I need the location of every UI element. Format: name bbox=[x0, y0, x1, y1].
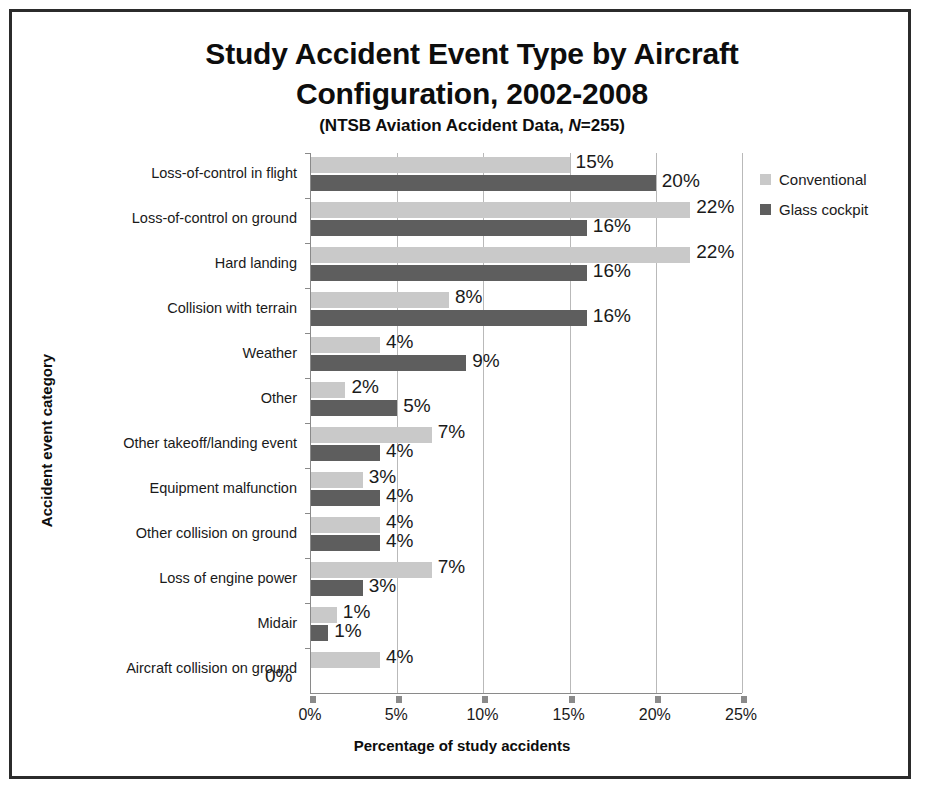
bar-value-label-glass: 9% bbox=[472, 350, 499, 372]
legend-swatch-icon bbox=[760, 204, 771, 215]
x-axis-line bbox=[310, 693, 742, 694]
category-axis-label: Other collision on ground bbox=[37, 525, 297, 541]
category-axis-label: Aircraft collision on ground bbox=[37, 660, 297, 676]
bar-value-label-conventional: 8% bbox=[455, 286, 482, 308]
x-axis-tick bbox=[482, 696, 488, 703]
category-axis-label: Loss-of-control in flight bbox=[37, 165, 297, 181]
category-tick bbox=[305, 648, 311, 649]
category-row: Loss of engine power7%3% bbox=[311, 558, 741, 603]
x-axis-tick-label: 5% bbox=[361, 706, 431, 724]
category-tick bbox=[305, 513, 311, 514]
bar-value-label-glass: 0% bbox=[265, 665, 292, 687]
legend-label: Conventional bbox=[779, 171, 867, 188]
bar-glass[interactable] bbox=[311, 490, 380, 506]
bar-value-label-glass: 5% bbox=[403, 395, 430, 417]
x-axis-title: Percentage of study accidents bbox=[182, 737, 742, 754]
bar-conventional[interactable] bbox=[311, 247, 690, 263]
bar-value-label-glass: 16% bbox=[593, 215, 631, 237]
x-axis-tick bbox=[396, 696, 402, 703]
category-tick bbox=[305, 243, 311, 244]
x-axis-tick bbox=[310, 696, 316, 703]
category-tick bbox=[305, 603, 311, 604]
bar-value-label-conventional: 4% bbox=[386, 646, 413, 668]
bar-glass[interactable] bbox=[311, 265, 587, 281]
bar-conventional[interactable] bbox=[311, 337, 380, 353]
bar-value-label-glass: 3% bbox=[369, 575, 396, 597]
category-axis-label: Weather bbox=[37, 345, 297, 361]
legend-item-glass[interactable]: Glass cockpit bbox=[760, 194, 868, 224]
category-tick bbox=[305, 558, 311, 559]
bar-value-label-glass: 16% bbox=[593, 260, 631, 282]
category-row: Loss-of-control on ground22%16% bbox=[311, 198, 741, 243]
chart-subtitle-suffix: =255) bbox=[581, 116, 625, 135]
category-axis-label: Other bbox=[37, 390, 297, 406]
category-axis-label: Midair bbox=[37, 615, 297, 631]
x-axis-tick-label: 10% bbox=[447, 706, 517, 724]
bar-conventional[interactable] bbox=[311, 472, 363, 488]
chart-title-line-1: Study Accident Event Type by Aircraft bbox=[122, 34, 822, 74]
chart-legend: ConventionalGlass cockpit bbox=[760, 164, 868, 224]
chart-title-line-2: Configuration, 2002-2008 bbox=[122, 74, 822, 114]
chart-title: Study Accident Event Type by Aircraft Co… bbox=[122, 34, 822, 114]
bar-conventional[interactable] bbox=[311, 607, 337, 623]
bar-conventional[interactable] bbox=[311, 517, 380, 533]
gridline bbox=[742, 153, 743, 693]
legend-item-conventional[interactable]: Conventional bbox=[760, 164, 868, 194]
bar-conventional[interactable] bbox=[311, 157, 570, 173]
category-axis-label: Hard landing bbox=[37, 255, 297, 271]
x-axis-tick-label: 25% bbox=[706, 706, 776, 724]
category-row: Other collision on ground4%4% bbox=[311, 513, 741, 558]
bar-value-label-conventional: 7% bbox=[438, 421, 465, 443]
category-row: Other takeoff/landing event7%4% bbox=[311, 423, 741, 468]
bar-conventional[interactable] bbox=[311, 427, 432, 443]
bar-conventional[interactable] bbox=[311, 382, 345, 398]
bar-glass[interactable] bbox=[311, 445, 380, 461]
category-row: Other2%5% bbox=[311, 378, 741, 423]
bar-glass[interactable] bbox=[311, 625, 328, 641]
category-tick bbox=[305, 153, 311, 154]
category-row: Equipment malfunction3%4% bbox=[311, 468, 741, 513]
category-tick bbox=[305, 378, 311, 379]
x-axis-tick-label: 15% bbox=[534, 706, 604, 724]
category-tick bbox=[305, 198, 311, 199]
bar-value-label-conventional: 15% bbox=[576, 151, 614, 173]
bar-value-label-conventional: 22% bbox=[696, 196, 734, 218]
x-axis-tick bbox=[741, 696, 747, 703]
chart-figure-frame: Study Accident Event Type by Aircraft Co… bbox=[9, 9, 911, 779]
category-axis-label: Loss of engine power bbox=[37, 570, 297, 586]
category-axis-label: Other takeoff/landing event bbox=[37, 435, 297, 451]
category-axis-label: Loss-of-control on ground bbox=[37, 210, 297, 226]
bar-value-label-conventional: 2% bbox=[351, 376, 378, 398]
category-tick bbox=[305, 288, 311, 289]
bar-value-label-glass: 1% bbox=[334, 620, 361, 642]
category-axis-label: Collision with terrain bbox=[37, 300, 297, 316]
bar-value-label-glass: 16% bbox=[593, 305, 631, 327]
bar-value-label-conventional: 4% bbox=[386, 331, 413, 353]
category-tick bbox=[305, 423, 311, 424]
bar-glass[interactable] bbox=[311, 310, 587, 326]
category-row: Hard landing22%16% bbox=[311, 243, 741, 288]
x-axis-tick-label: 0% bbox=[275, 706, 345, 724]
bar-value-label-glass: 4% bbox=[386, 485, 413, 507]
category-axis-label: Equipment malfunction bbox=[37, 480, 297, 496]
bar-value-label-conventional: 22% bbox=[696, 241, 734, 263]
bar-value-label-glass: 4% bbox=[386, 440, 413, 462]
bar-value-label-glass: 20% bbox=[662, 170, 700, 192]
category-tick bbox=[305, 468, 311, 469]
bar-value-label-conventional: 7% bbox=[438, 556, 465, 578]
bar-conventional[interactable] bbox=[311, 652, 380, 668]
bar-glass[interactable] bbox=[311, 175, 656, 191]
bar-glass[interactable] bbox=[311, 400, 397, 416]
category-row: Midair1%1% bbox=[311, 603, 741, 648]
bar-conventional[interactable] bbox=[311, 202, 690, 218]
bar-glass[interactable] bbox=[311, 580, 363, 596]
bar-glass[interactable] bbox=[311, 535, 380, 551]
bar-conventional[interactable] bbox=[311, 292, 449, 308]
category-row: Collision with terrain8%16% bbox=[311, 288, 741, 333]
bar-glass[interactable] bbox=[311, 355, 466, 371]
category-row: Loss-of-control in flight15%20% bbox=[311, 153, 741, 198]
category-row: Weather4%9% bbox=[311, 333, 741, 378]
legend-label: Glass cockpit bbox=[779, 201, 868, 218]
bar-glass[interactable] bbox=[311, 220, 587, 236]
category-tick bbox=[305, 333, 311, 334]
